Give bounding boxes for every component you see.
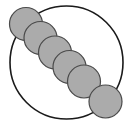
figure-container xyxy=(0,0,134,127)
circle-6 xyxy=(89,85,122,118)
circles-diagram-svg xyxy=(0,0,134,127)
